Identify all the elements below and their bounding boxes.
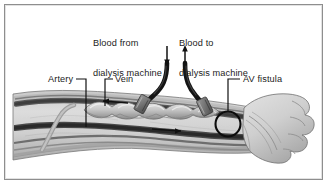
label-blood-to-dialysis-machine: Blood to dialysis machine xyxy=(179,17,248,99)
label-vein: Vein xyxy=(115,74,133,84)
av-fistula-illustration xyxy=(0,0,328,185)
figure-root: Blood from dialysis machine Blood to dia… xyxy=(0,0,328,185)
hand-group xyxy=(243,94,314,163)
label-blood-from-line1: Blood from xyxy=(93,38,162,48)
label-blood-from-dialysis-machine: Blood from dialysis machine xyxy=(93,17,162,99)
label-artery: Artery xyxy=(48,74,73,84)
label-blood-to-line2: dialysis machine xyxy=(179,68,248,78)
label-av-fistula: AV fistula xyxy=(243,74,282,84)
hand-shape xyxy=(243,94,314,163)
label-blood-to-line1: Blood to xyxy=(179,38,248,48)
